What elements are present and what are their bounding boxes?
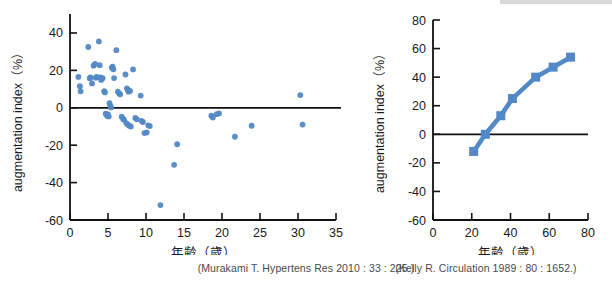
scatter-point bbox=[144, 130, 150, 136]
x-axis-title: 年齢（歳） bbox=[171, 245, 236, 255]
scatter-point bbox=[117, 91, 123, 97]
x-axis-title: 年齢（歳） bbox=[478, 245, 543, 255]
y-tick-label: 20 bbox=[412, 99, 426, 113]
x-tick-label: 30 bbox=[291, 226, 305, 240]
scatter-point bbox=[138, 93, 144, 99]
y-axis-title: augmentation index（%） bbox=[373, 47, 387, 193]
y-tick-label: 20 bbox=[49, 64, 63, 78]
scatter-point bbox=[89, 81, 95, 87]
x-tick-label: 0 bbox=[430, 226, 437, 240]
scatter-point bbox=[297, 92, 303, 98]
chart-panel-left: 40200-20-40-6005101520253035年齢（歳）augment… bbox=[0, 0, 360, 287]
x-tick-label: 80 bbox=[581, 226, 595, 240]
x-tick-label: 0 bbox=[67, 226, 74, 240]
y-tick-label: 80 bbox=[412, 14, 426, 28]
line-marker bbox=[531, 73, 540, 82]
scatter-point bbox=[130, 67, 136, 73]
y-tick-label: 0 bbox=[56, 101, 63, 115]
scatter-point bbox=[96, 38, 102, 44]
x-tick-label: 25 bbox=[253, 226, 267, 240]
x-tick-label: 20 bbox=[215, 226, 229, 240]
scatter-point bbox=[102, 90, 108, 96]
x-tick-label: 20 bbox=[465, 226, 479, 240]
line-marker bbox=[496, 111, 505, 120]
line-series-markers bbox=[469, 53, 575, 156]
scatter-point bbox=[88, 75, 94, 81]
scatter-chart-svg: 40200-20-40-6005101520253035年齢（歳）augment… bbox=[0, 0, 360, 255]
scatter-point bbox=[78, 88, 84, 94]
y-axis-title: augmentation index（%） bbox=[11, 46, 25, 192]
scatter-point bbox=[300, 122, 306, 128]
scatter-point bbox=[232, 134, 238, 140]
scatter-point bbox=[113, 47, 119, 53]
chart-panel-right: 806040200-20-40-60020406080年齢（歳）augmenta… bbox=[360, 0, 612, 287]
scatter-point bbox=[111, 75, 117, 81]
y-tick-label: -60 bbox=[45, 214, 63, 228]
scatter-point bbox=[97, 62, 103, 68]
line-marker bbox=[566, 53, 575, 62]
y-tick-label: 60 bbox=[412, 42, 426, 56]
scatter-point bbox=[249, 123, 255, 129]
scatter-point bbox=[108, 105, 114, 111]
y-tick-label: -60 bbox=[408, 214, 426, 228]
y-tick-label: -40 bbox=[45, 176, 63, 190]
y-tick-label: 0 bbox=[419, 128, 426, 142]
y-tick-label: 40 bbox=[412, 71, 426, 85]
figure-root: 40200-20-40-6005101520253035年齢（歳）augment… bbox=[0, 0, 612, 287]
line-marker bbox=[469, 147, 478, 156]
y-tick-label: -20 bbox=[408, 156, 426, 170]
x-tick-label: 15 bbox=[177, 226, 191, 240]
scatter-point bbox=[158, 202, 164, 208]
scatter-point bbox=[128, 124, 134, 130]
scatter-point bbox=[127, 88, 133, 94]
scatter-point bbox=[110, 66, 116, 72]
x-tick-label: 60 bbox=[542, 226, 556, 240]
scatter-point bbox=[147, 123, 153, 129]
scatter-point bbox=[140, 119, 146, 125]
x-tick-label: 35 bbox=[329, 226, 343, 240]
scatter-point bbox=[100, 75, 106, 81]
x-tick-label: 10 bbox=[139, 226, 153, 240]
scatter-point bbox=[77, 83, 83, 89]
line-marker bbox=[508, 94, 517, 103]
y-tick-label: 40 bbox=[49, 26, 63, 40]
scatter-point bbox=[216, 110, 222, 116]
y-tick-label: -20 bbox=[45, 139, 63, 153]
line-chart-svg: 806040200-20-40-60020406080年齢（歳）augmenta… bbox=[360, 0, 612, 255]
x-tick-label: 40 bbox=[504, 226, 518, 240]
y-tick-label: -40 bbox=[408, 185, 426, 199]
scatter-series bbox=[75, 38, 305, 207]
x-tick-label: 5 bbox=[105, 226, 112, 240]
scatter-point bbox=[171, 162, 177, 168]
scatter-point bbox=[123, 72, 129, 78]
scatter-point bbox=[174, 141, 180, 147]
scatter-point bbox=[106, 113, 112, 119]
line-marker bbox=[481, 130, 490, 139]
scatter-point bbox=[85, 44, 91, 50]
caption-right: (Kelly R. Circulation 1989 : 80 : 1652.) bbox=[360, 262, 612, 274]
scatter-point bbox=[75, 74, 81, 80]
line-marker bbox=[549, 63, 558, 72]
